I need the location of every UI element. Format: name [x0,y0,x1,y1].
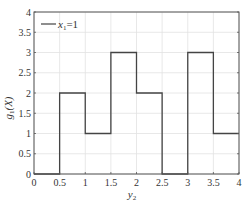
y-tick-label: 2.5 [19,67,32,78]
x-tick-label: 0.5 [53,177,66,188]
y-tick-label: 1.5 [19,108,32,119]
x-tick-label: 3.5 [207,177,220,188]
x-tick-label: 4 [237,177,242,188]
step-chart: 00.511.522.533.54 00.511.522.533.54 x1=1… [0,0,247,208]
y-tick-label: 3.5 [19,27,32,38]
y-tick-label: 1 [26,128,31,139]
x-tick-label: 2.5 [156,177,169,188]
x-axis-label: y2 [127,188,137,202]
y-tick-label: 0.5 [19,148,32,159]
x-tick-label: 1 [83,177,88,188]
y-tick-label: 4 [26,7,31,18]
y-tick-label: 3 [26,47,31,58]
y-tick-label: 2 [26,88,31,99]
x-tick-label: 0 [32,177,37,188]
legend-label: x1=1 [57,18,78,32]
y-axis-label: g1(X) [2,96,16,119]
y-tick-label: 0 [26,169,31,180]
legend: x1=1 [41,18,78,32]
x-tick-label: 1.5 [105,177,118,188]
x-tick-label: 2 [134,177,139,188]
x-tick-label: 3 [185,177,190,188]
